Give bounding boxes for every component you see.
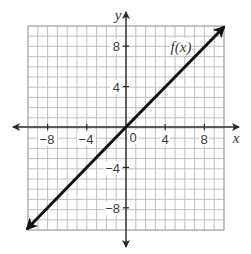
x-axis-label: x (232, 130, 240, 146)
x-tick-label-4: 4 (161, 132, 168, 147)
x-tick-label-neg4: −4 (79, 132, 94, 147)
y-tick-label-neg8: −8 (105, 201, 120, 216)
function-label: f(x) (171, 39, 192, 56)
x-tick-label-8: 8 (200, 132, 207, 147)
origin-label: 0 (129, 130, 136, 145)
x-tick-label-neg8: −8 (40, 132, 55, 147)
y-tick-label-neg4: −4 (105, 161, 120, 176)
y-axis-label: y (113, 7, 122, 23)
y-tick-label-4: 4 (113, 80, 120, 95)
y-tick-label-8: 8 (113, 39, 120, 54)
coordinate-plane-chart: −8 −4 4 8 0 8 4 −4 −8 y x f(x) (0, 0, 251, 254)
